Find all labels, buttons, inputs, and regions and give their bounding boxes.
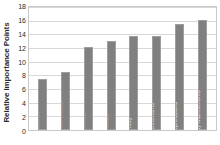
y-axis-tick-label: 8 (22, 72, 26, 79)
bar[interactable]: Proxemics (84, 47, 93, 130)
bar[interactable]: Body Mannerisms (152, 36, 161, 130)
bar[interactable]: Appearance (38, 79, 47, 130)
bar-category-label: Eye Gaze (107, 114, 112, 130)
y-axis-tick-labels: 024681012141618 (12, 6, 26, 131)
bar-category-label: Appearance (38, 111, 43, 130)
bar-slot: Appearance (31, 7, 54, 130)
y-axis-tick-label: 12 (18, 44, 26, 51)
y-axis-tick-label: 14 (18, 30, 26, 37)
bar[interactable]: Identity (129, 36, 138, 130)
bar-category-label: Identity (129, 117, 134, 130)
gridline (29, 130, 216, 131)
bar[interactable]: Eye Gaze (107, 41, 116, 130)
bar-category-label: Personal Body Mannerisms (198, 90, 203, 130)
bar[interactable]: Facial Expressions (175, 24, 184, 130)
bar-slot: Appearance Choice (54, 7, 77, 130)
y-axis-tick-label: 4 (22, 100, 26, 107)
bar-category-label: Facial Expressions (175, 102, 180, 130)
bar-category-label: Appearance Choice (61, 101, 66, 130)
bar-chart: Relative Importance Points 0246810121416… (0, 0, 220, 145)
bar-slot: Eye Gaze (100, 7, 123, 130)
bar-slot: Body Mannerisms (145, 7, 168, 130)
bar-category-label: Proxemics (84, 113, 89, 130)
bar-slot: Proxemics (77, 7, 100, 130)
y-axis-tick-label: 18 (18, 3, 26, 10)
y-axis-tick-label: 2 (22, 114, 26, 121)
y-axis-tick-label: 0 (22, 128, 26, 135)
y-axis-tick-label: 10 (18, 58, 26, 65)
bars-container: AppearanceAppearance ChoiceProxemicsEye … (29, 7, 216, 130)
bar[interactable]: Appearance Choice (61, 72, 70, 130)
y-axis-tick-label: 6 (22, 86, 26, 93)
bar-slot: Facial Expressions (168, 7, 191, 130)
bar-slot: Identity (123, 7, 146, 130)
y-axis-title: Relative Importance Points (0, 0, 12, 145)
bar[interactable]: Personal Body Mannerisms (198, 20, 207, 130)
plot-area: AppearanceAppearance ChoiceProxemicsEye … (28, 6, 217, 131)
y-axis-tick-label: 16 (18, 16, 26, 23)
bar-category-label: Body Mannerisms (152, 103, 157, 130)
bar-slot: Personal Body Mannerisms (191, 7, 214, 130)
